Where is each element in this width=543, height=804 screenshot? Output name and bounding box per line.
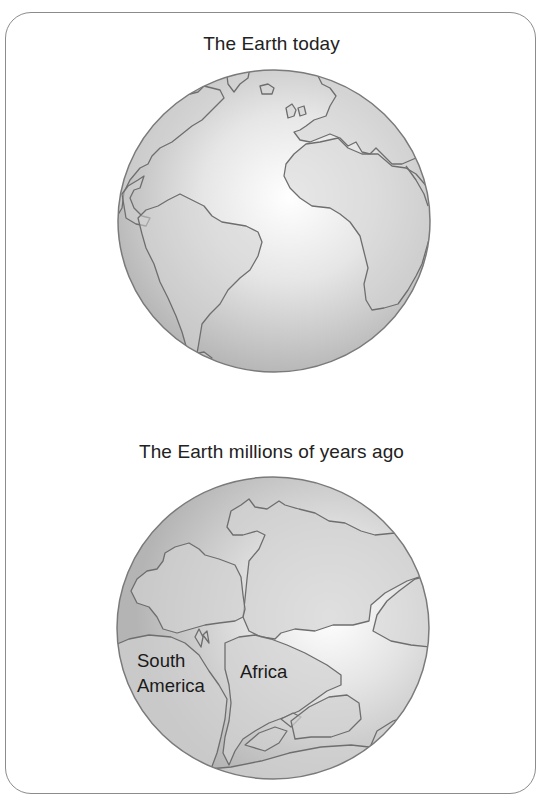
title-earth-millions-of-years-ago: The Earth millions of years ago xyxy=(0,441,543,463)
globe-earth-pangaea xyxy=(115,475,431,781)
title-earth-today: The Earth today xyxy=(0,33,543,55)
label-south-america-line2: America xyxy=(137,673,205,698)
globe-earth-today xyxy=(116,68,432,374)
label-africa: Africa xyxy=(240,659,287,684)
label-south-america: South America xyxy=(137,648,205,698)
label-south-america-line1: South xyxy=(137,648,205,673)
